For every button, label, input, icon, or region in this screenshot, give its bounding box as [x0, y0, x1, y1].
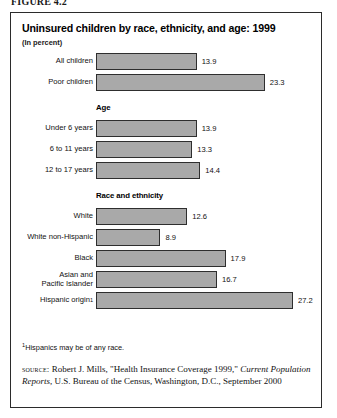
bar [96, 250, 226, 267]
bar-row: White12.6 [11, 206, 323, 227]
bar-value-label: 13.3 [197, 139, 212, 160]
bar-value-label: 16.7 [222, 269, 237, 290]
bar [96, 120, 197, 137]
section-heading: Race and ethnicity [96, 191, 163, 200]
bar-value-label: 13.9 [202, 118, 217, 139]
bar-row: White non-Hispanic8.9 [11, 227, 323, 248]
bar-category-label: 12 to 17 years [11, 160, 93, 181]
bar-row: Poor children23.3 [11, 72, 323, 93]
bar-row: Black17.9 [11, 248, 323, 269]
bar-value-label: 23.3 [270, 72, 285, 93]
bar-chart-plot-area: All children13.9Poor children23.3AgeUnde… [11, 13, 323, 333]
bar-value-label: 27.2 [298, 290, 313, 311]
bar-row: 12 to 17 years14.4 [11, 160, 323, 181]
bar-value-label: 13.9 [202, 51, 217, 72]
bar-row: All children13.9 [11, 51, 323, 72]
bar-category-label: Asian and Pacific Islander [11, 269, 93, 290]
bar-label-footnote-marker: 1 [90, 296, 93, 305]
section-heading: Age [96, 103, 110, 112]
bar-category-label: Poor children [11, 72, 93, 93]
bar-category-label: White non-Hispanic [11, 227, 93, 248]
bar [96, 141, 192, 158]
bar-row: Hispanic origin127.2 [11, 290, 323, 311]
source-text-1: Robert J. Mills, "Health Insurance Cover… [50, 364, 241, 374]
bar-value-label: 14.4 [205, 160, 220, 181]
source-tag: SOURCE: [22, 364, 50, 374]
source-text-2: , U.S. Bureau of the Census, Washington,… [50, 376, 282, 386]
bar-row: 6 to 11 years13.3 [11, 139, 323, 160]
bar-category-label: 6 to 11 years [11, 139, 93, 160]
bar [96, 74, 265, 91]
bar-row: Asian and Pacific Islander16.7 [11, 269, 323, 290]
bar [96, 229, 160, 246]
footnote: 1Hispanics may be of any race. [22, 340, 310, 353]
bar [96, 162, 200, 179]
bar-value-label: 17.9 [231, 248, 246, 269]
bar-value-label: 8.9 [165, 227, 176, 248]
source-note: SOURCE: Robert J. Mills, "Health Insuran… [22, 363, 312, 387]
bar [96, 271, 217, 288]
bar-category-label: White [11, 206, 93, 227]
figure-frame: Uninsured children by race, ethnicity, a… [10, 12, 322, 408]
footnote-text: Hispanics may be of any race. [25, 343, 124, 352]
bar-category-label: Under 6 years [11, 118, 93, 139]
bar [96, 53, 197, 70]
bar-category-label: Black [11, 248, 93, 269]
bar-value-label: 12.6 [192, 206, 207, 227]
bar-row: Under 6 years13.9 [11, 118, 323, 139]
bar [96, 292, 293, 309]
figure-number: FIGURE 4.2 [11, 0, 67, 7]
bar-category-label: All children [11, 51, 93, 72]
bar [96, 208, 187, 225]
bar-category-label: Hispanic origin1 [11, 290, 93, 311]
